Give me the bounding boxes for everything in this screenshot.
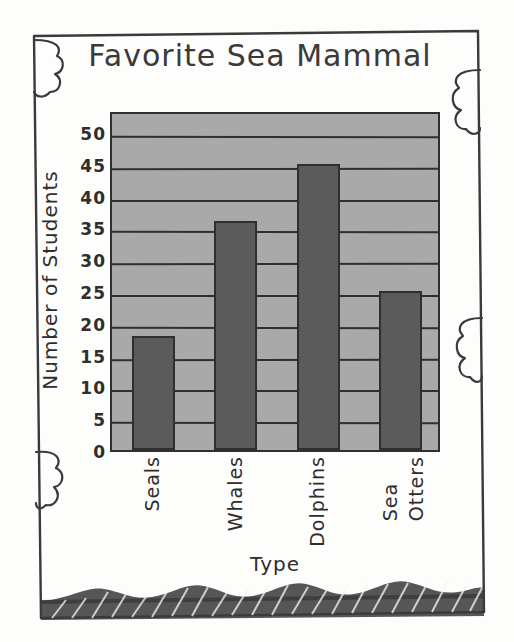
- y-tick-label: 10: [80, 378, 106, 398]
- bar-seals[interactable]: [132, 336, 175, 450]
- worksheet-page: Favorite Sea Mammal Number of Students 0…: [0, 0, 514, 642]
- y-axis-tick-labels: 0 5 10 15 20 25 30 35 40 45 50: [58, 112, 106, 452]
- bar-whales[interactable]: [214, 221, 257, 450]
- x-cat-label-whales: Whales: [224, 456, 246, 535]
- y-tick-label: 40: [80, 188, 106, 208]
- y-tick-label: 20: [80, 315, 106, 335]
- x-cat-label-line: Sea: [379, 456, 401, 521]
- chart-title: Favorite Sea Mammal: [60, 38, 460, 73]
- x-cat-label-line: Seals: [141, 456, 163, 512]
- x-cat-label-seals: Seals: [141, 456, 163, 516]
- y-tick-label: 25: [80, 283, 106, 303]
- x-cat-label-line: Dolphins: [306, 456, 328, 547]
- y-tick-label: 50: [80, 124, 106, 144]
- ground-hatch-band: [41, 581, 484, 620]
- x-axis-title: Type: [110, 552, 440, 576]
- x-cat-label-line: Whales: [224, 456, 246, 531]
- y-tick-label: 35: [80, 219, 106, 239]
- y-tick-label: 5: [93, 410, 106, 430]
- x-axis-category-labels: Seals Whales Dolphins SeaOtters: [110, 456, 440, 564]
- bars-layer: [112, 114, 438, 450]
- x-cat-label-dolphins: Dolphins: [306, 456, 328, 551]
- bar-sea-otters[interactable]: [379, 291, 422, 450]
- y-tick-label: 0: [93, 442, 106, 462]
- x-cat-label-line: Otters: [405, 456, 427, 521]
- y-tick-label: 45: [80, 156, 106, 176]
- bar-dolphins[interactable]: [297, 164, 340, 450]
- x-cat-label-sea-otters: SeaOtters: [379, 456, 431, 521]
- plot-area: [110, 112, 440, 452]
- y-tick-label: 30: [80, 251, 106, 271]
- y-tick-label: 15: [80, 347, 106, 367]
